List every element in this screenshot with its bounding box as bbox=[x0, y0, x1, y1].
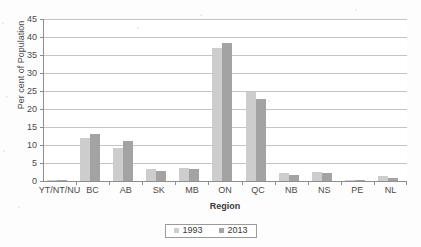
bar-group bbox=[208, 19, 241, 181]
scan-artifact bbox=[200, 14, 202, 16]
x-label-nl: NL bbox=[385, 185, 397, 196]
y-axis-title: Per cent of Population bbox=[16, 0, 26, 140]
bar-group bbox=[308, 19, 341, 181]
bar-group bbox=[175, 19, 208, 181]
scan-artifact bbox=[6, 96, 8, 98]
bars-layer bbox=[43, 19, 407, 182]
legend-item-2013: 2013 bbox=[219, 226, 248, 235]
y-tick-label: 40 bbox=[27, 33, 37, 42]
x-label-ab: AB bbox=[120, 185, 132, 196]
plot-area: 051015202530354045 bbox=[43, 19, 407, 182]
x-label-yt-nt-nu: YT/NT/NU bbox=[39, 185, 81, 196]
y-tick-label: 30 bbox=[27, 69, 37, 78]
chart-legend: 19932013 bbox=[164, 224, 256, 238]
bar-2013-qc bbox=[256, 99, 266, 181]
y-tick-label: 20 bbox=[27, 105, 37, 114]
bar-2013-mb bbox=[189, 169, 199, 181]
scan-artifact bbox=[355, 9, 357, 11]
bar-group bbox=[275, 19, 308, 181]
legend-swatch-1993 bbox=[173, 228, 178, 233]
bar-1993-ns bbox=[312, 172, 322, 181]
x-label-on: ON bbox=[218, 185, 232, 196]
legend-label-2013: 2013 bbox=[228, 226, 248, 235]
scan-artifact bbox=[18, 206, 20, 208]
scan-artifact bbox=[268, 100, 270, 102]
x-label-qc: QC bbox=[251, 185, 265, 196]
bar-2013-ns bbox=[322, 173, 332, 181]
scan-artifact bbox=[3, 150, 5, 152]
legend-label-1993: 1993 bbox=[182, 226, 202, 235]
bar-1993-on bbox=[212, 48, 222, 181]
x-label-ns: NS bbox=[318, 185, 331, 196]
x-label-nb: NB bbox=[285, 185, 298, 196]
x-label-sk: SK bbox=[153, 185, 165, 196]
chart-title bbox=[0, 0, 421, 1]
bar-1993-qc bbox=[246, 92, 256, 181]
bar-1993-nb bbox=[279, 173, 289, 181]
y-tick-label: 5 bbox=[32, 159, 37, 168]
bar-group bbox=[341, 19, 374, 181]
x-axis-labels: YT/NT/NUBCABSKMBONQCNBNSPENL bbox=[43, 185, 407, 199]
bar-2013-sk bbox=[156, 171, 166, 181]
scan-artifact bbox=[393, 188, 395, 190]
bar-group bbox=[43, 19, 76, 181]
y-axis-line bbox=[43, 19, 44, 182]
y-tick-label: 25 bbox=[27, 87, 37, 96]
bar-2013-bc bbox=[90, 134, 100, 181]
legend-swatch-2013 bbox=[219, 228, 224, 233]
bar-2013-on bbox=[222, 43, 232, 181]
bar-1993-mb bbox=[179, 168, 189, 181]
y-tick-label: 10 bbox=[27, 141, 37, 150]
scan-artifact bbox=[137, 27, 139, 29]
bar-group bbox=[374, 19, 407, 181]
x-axis-title: Region bbox=[43, 201, 407, 211]
y-tick-label: 15 bbox=[27, 123, 37, 132]
bar-1993-bc bbox=[80, 138, 90, 181]
bar-2013-ab bbox=[123, 141, 133, 181]
bar-1993-ab bbox=[113, 148, 123, 181]
x-axis-line bbox=[43, 181, 407, 182]
scan-artifact bbox=[2, 22, 4, 24]
x-label-pe: PE bbox=[351, 185, 363, 196]
y-tick-label: 35 bbox=[27, 51, 37, 60]
bar-chart: Per cent of Population 05101520253035404… bbox=[0, 0, 421, 247]
bar-group bbox=[109, 19, 142, 181]
bar-group bbox=[142, 19, 175, 181]
y-tick-label: 45 bbox=[27, 15, 37, 24]
x-label-bc: BC bbox=[86, 185, 99, 196]
bar-1993-sk bbox=[146, 169, 156, 181]
y-tick-label: 0 bbox=[32, 177, 37, 186]
bar-group bbox=[76, 19, 109, 181]
x-label-mb: MB bbox=[185, 185, 199, 196]
legend-item-1993: 1993 bbox=[173, 226, 202, 235]
